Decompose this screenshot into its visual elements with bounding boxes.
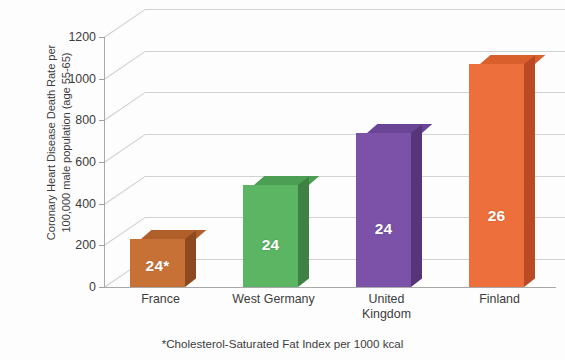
tick-mark-200 <box>99 245 105 246</box>
y-tick-label-400: 400 <box>48 197 96 211</box>
bar-value-label: 24 <box>243 236 298 254</box>
depth-line-600 <box>104 134 146 163</box>
tick-mark-0 <box>99 287 105 288</box>
bar-front-face <box>356 133 411 287</box>
bar-value-label: 24* <box>130 257 185 275</box>
depth-line-800 <box>104 92 146 121</box>
category-label-line: Kingdom <box>317 307 457 322</box>
y-tick-label-200: 200 <box>48 238 96 252</box>
plot-area: 020040060080010001200 24*242426 FranceWe… <box>0 0 565 360</box>
gridline-1200 <box>145 9 565 10</box>
gridline-1000 <box>145 51 565 52</box>
bar-value-label: 24 <box>356 220 411 238</box>
bar-side-face <box>185 230 196 287</box>
bar-top-face <box>480 55 545 64</box>
tick-mark-1200 <box>99 37 105 38</box>
y-tick-label-0: 0 <box>48 280 96 294</box>
x-axis-line <box>104 287 556 288</box>
y-tick-label-1200: 1200 <box>48 30 96 44</box>
bar-united-kingdom[interactable]: 24 <box>356 133 411 287</box>
category-label-finland: Finland <box>430 292 565 307</box>
bar-side-face <box>298 176 309 287</box>
tick-mark-1000 <box>99 79 105 80</box>
depth-line-400 <box>104 176 146 205</box>
bar-top-face <box>367 124 432 133</box>
tick-mark-400 <box>99 204 105 205</box>
bar-top-face <box>141 230 206 239</box>
bar-west-germany[interactable]: 24 <box>243 185 298 287</box>
bar-side-face <box>524 55 535 287</box>
tick-mark-800 <box>99 120 105 121</box>
depth-line-1000 <box>104 51 146 80</box>
category-label-line: Finland <box>430 292 565 307</box>
chart-container: Coronary Heart Disease Death Rate per 10… <box>0 0 565 360</box>
y-tick-label-600: 600 <box>48 155 96 169</box>
chart-footnote: *Cholesterol-Saturated Fat Index per 100… <box>0 337 565 350</box>
tick-mark-600 <box>99 162 105 163</box>
y-tick-label-1000: 1000 <box>48 72 96 86</box>
bar-france[interactable]: 24* <box>130 239 185 287</box>
bar-top-face <box>254 176 319 185</box>
bar-finland[interactable]: 26 <box>469 64 524 287</box>
depth-line-1200 <box>104 9 146 38</box>
bar-front-face <box>469 64 524 287</box>
bar-side-face <box>411 124 422 287</box>
y-tick-label-800: 800 <box>48 113 96 127</box>
bar-value-label: 26 <box>469 207 524 225</box>
